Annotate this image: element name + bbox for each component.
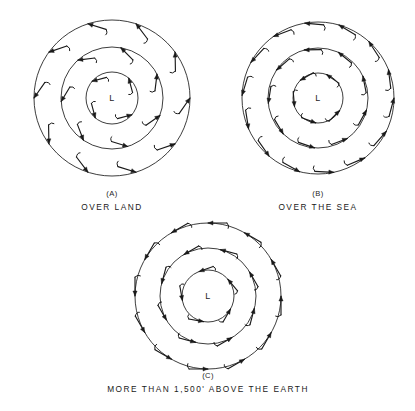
wind-arrow	[353, 110, 366, 125]
wind-arrow	[49, 46, 70, 53]
diagram-panel-a: L	[0, 8, 224, 190]
wind-arrow	[34, 82, 50, 98]
wind-arrow	[246, 108, 251, 129]
wind-arrow	[170, 52, 177, 73]
caption-c-letter: (C)	[63, 370, 353, 382]
wind-arrow	[273, 30, 294, 37]
wind-arrow	[136, 24, 147, 43]
wind-arrow	[208, 221, 229, 229]
wind-arrow	[313, 166, 334, 174]
wind-arrow	[61, 87, 74, 102]
wind-arrow	[133, 275, 141, 296]
wind-arrow	[305, 22, 326, 31]
wind-arrow	[338, 52, 351, 67]
low-pressure-center-label: L	[109, 93, 115, 103]
wind-arrow	[179, 284, 183, 301]
wind-arrow	[91, 101, 96, 118]
caption-b-letter: (B)	[228, 188, 408, 200]
wind-arrow	[178, 333, 195, 343]
caption-c-text: MORE THAN 1,500' ABOVE THE EARTH	[63, 383, 353, 396]
wind-arrow	[245, 308, 255, 325]
wind-arrow	[362, 76, 367, 95]
wind-arrow	[174, 98, 190, 114]
low-pressure-center-label: L	[205, 291, 211, 301]
wind-arrow	[386, 70, 392, 91]
wind-arrow	[304, 48, 323, 55]
wind-diagram-over-land: L	[0, 8, 224, 190]
low-pressure-center-label: L	[315, 93, 321, 103]
diagram-panel-c: L	[108, 210, 308, 382]
wind-arrow	[369, 131, 386, 145]
wind-arrow	[344, 158, 365, 165]
wind-arrow	[142, 115, 160, 125]
wind-arrow	[161, 266, 171, 283]
wind-arrow	[220, 249, 237, 259]
wind-arrow	[47, 123, 54, 144]
wind-arrow	[154, 143, 175, 150]
wind-arrow	[88, 23, 107, 35]
wind-arrow	[111, 137, 128, 147]
caption-c: (C) MORE THAN 1,500' ABOVE THE EARTH	[63, 370, 353, 396]
caption-a-letter: (A)	[22, 188, 202, 200]
wind-arrow	[128, 78, 133, 95]
clipped-figure-header: WIND CIRCULATION AROUND A LOW PRESSURE A…	[0, 0, 415, 1]
figure-page: WIND CIRCULATION AROUND A LOW PRESSURE A…	[0, 0, 415, 411]
wind-arrow	[77, 121, 83, 140]
wind-arrow	[300, 73, 316, 81]
wind-arrow	[121, 48, 133, 64]
wind-arrow	[199, 266, 216, 271]
wind-arrow	[339, 25, 356, 40]
wind-arrow	[276, 296, 284, 317]
diagram-panel-b: L	[206, 8, 415, 190]
wind-arrow	[327, 75, 339, 88]
wind-arrow	[251, 48, 269, 62]
wind-arrow	[92, 77, 109, 82]
wind-arrow	[301, 113, 316, 123]
wind-arrow	[283, 157, 300, 172]
wind-arrow	[245, 233, 262, 248]
wind-arrow	[145, 243, 160, 260]
wind-arrow	[325, 111, 339, 122]
wind-arrow	[117, 161, 136, 173]
wind-diagram-over-the-sea: L	[206, 8, 415, 190]
wind-arrow	[150, 74, 159, 92]
wind-arrow	[155, 344, 172, 359]
wind-arrow	[115, 114, 132, 119]
wind-arrow	[256, 333, 271, 350]
wind-arrow	[76, 153, 87, 172]
wind-diagram-above-the-earth: L	[108, 210, 308, 382]
